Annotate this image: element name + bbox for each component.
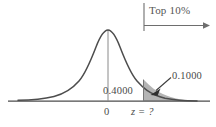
shaded-tail-region — [144, 80, 204, 101]
z-query-tick-label: z = ? — [131, 107, 154, 118]
top-percent-label: Top 10% — [149, 5, 190, 16]
area-left-label: 0.4000 — [103, 86, 133, 97]
tail-callout-arrow-shaft — [156, 78, 171, 91]
normal-curve-figure: Top 10% 0.4000 0.1000 0 z = ? — [0, 0, 216, 127]
origin-tick-label: 0 — [104, 107, 109, 118]
area-tail-label: 0.1000 — [172, 71, 202, 82]
top-percent-arrowhead — [203, 22, 210, 28]
